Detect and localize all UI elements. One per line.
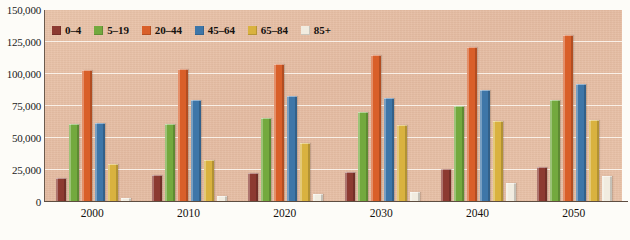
- chart-legend: 0–45–1920–4445–6465–8485+: [52, 22, 331, 38]
- bar: [345, 172, 355, 202]
- x-axis-tick-label: 2040: [466, 207, 489, 219]
- bar-shadow-edge: [597, 120, 599, 202]
- bar-highlight-edge: [358, 112, 360, 202]
- bar-shadow-edge: [462, 106, 464, 202]
- y-axis-tick-label: 25,000: [12, 164, 41, 176]
- bar: [82, 70, 92, 202]
- bar-shadow-edge: [488, 90, 490, 202]
- bar-top-cap: [410, 192, 420, 193]
- bar-highlight-edge: [397, 125, 399, 202]
- bar-shadow-edge: [392, 98, 394, 202]
- bar-highlight-edge: [261, 118, 263, 202]
- legend-item[interactable]: 45–64: [195, 24, 235, 36]
- plot-area: [44, 10, 622, 202]
- bar-top-cap: [563, 35, 573, 36]
- bar: [191, 100, 201, 202]
- bar-top-cap: [480, 90, 490, 91]
- bar-highlight-edge: [95, 123, 97, 202]
- bar-highlight-edge: [384, 98, 386, 202]
- bar: [493, 121, 503, 202]
- bar: [95, 123, 105, 202]
- bar-highlight-edge: [493, 121, 495, 202]
- y-axis-tick-label: 75,000: [12, 100, 41, 112]
- bar-shadow-edge: [186, 69, 188, 202]
- bar-top-cap: [82, 70, 92, 71]
- bar-highlight-edge: [204, 160, 206, 202]
- bar-shadow-edge: [160, 175, 162, 202]
- bar-highlight-edge: [550, 100, 552, 202]
- bar-top-cap: [384, 98, 394, 99]
- bar-top-cap: [165, 124, 175, 125]
- bar-highlight-edge: [602, 176, 604, 202]
- bar: [248, 173, 258, 202]
- bar: [165, 124, 175, 202]
- bar-highlight-edge: [589, 120, 591, 202]
- legend-swatch-icon: [301, 26, 310, 35]
- bar: [204, 160, 214, 202]
- bar-shadow-edge: [308, 143, 310, 202]
- bar-top-cap: [95, 123, 105, 124]
- bar: [178, 69, 188, 202]
- bar: [480, 90, 490, 202]
- bar: [537, 167, 547, 202]
- bar-top-cap: [313, 194, 323, 195]
- bar-shadow-edge: [405, 125, 407, 202]
- bar-highlight-edge: [371, 55, 373, 202]
- bar-shadow-edge: [173, 124, 175, 202]
- bar-top-cap: [121, 198, 131, 199]
- bar: [576, 84, 586, 202]
- bar-shadow-edge: [199, 100, 201, 202]
- bar-top-cap: [454, 106, 464, 107]
- bar-shadow-edge: [116, 164, 118, 202]
- legend-item-label: 65–84: [261, 24, 288, 36]
- legend-item[interactable]: 85+: [301, 24, 331, 36]
- bar-highlight-edge: [248, 173, 250, 202]
- bar: [441, 169, 451, 202]
- bar-highlight-edge: [56, 178, 58, 202]
- bar-top-cap: [467, 47, 477, 48]
- legend-item[interactable]: 5–19: [94, 24, 129, 36]
- bars-layer: [45, 10, 622, 202]
- bar-top-cap: [371, 55, 381, 56]
- bar-shadow-edge: [571, 35, 573, 202]
- bar-shadow-edge: [514, 183, 516, 202]
- bar-top-cap: [345, 172, 355, 173]
- bar: [384, 98, 394, 202]
- bar-shadow-edge: [545, 167, 547, 202]
- bar-shadow-edge: [449, 169, 451, 202]
- legend-item[interactable]: 65–84: [248, 24, 288, 36]
- x-axis-baseline: [44, 201, 628, 202]
- bar-shadow-edge: [610, 176, 612, 202]
- bar-shadow-edge: [353, 172, 355, 202]
- bar-top-cap: [108, 164, 118, 165]
- legend-item-label: 85+: [314, 24, 331, 36]
- bar-highlight-edge: [480, 90, 482, 202]
- legend-item[interactable]: 20–44: [142, 24, 182, 36]
- bar-highlight-edge: [165, 124, 167, 202]
- bar-highlight-edge: [506, 183, 508, 202]
- x-axis-tick-label: 2050: [562, 207, 585, 219]
- bar-highlight-edge: [191, 100, 193, 202]
- bar-shadow-edge: [103, 123, 105, 202]
- bar-top-cap: [537, 167, 547, 168]
- bar-highlight-edge: [300, 143, 302, 202]
- bar-highlight-edge: [178, 69, 180, 202]
- bar-top-cap: [576, 84, 586, 85]
- legend-item[interactable]: 0–4: [52, 24, 81, 36]
- bar-top-cap: [56, 178, 66, 179]
- legend-swatch-icon: [142, 26, 151, 35]
- population-projection-bar-chart: 025,00050,00075,000100,000125,000150,000…: [0, 0, 630, 240]
- bar-shadow-edge: [269, 118, 271, 202]
- bar-top-cap: [204, 160, 214, 161]
- bar: [108, 164, 118, 202]
- bar: [358, 112, 368, 202]
- bar: [300, 143, 310, 202]
- y-axis-tick-label: 100,000: [7, 68, 41, 80]
- bar-top-cap: [589, 120, 599, 121]
- bar-highlight-edge: [108, 164, 110, 202]
- bar-shadow-edge: [501, 121, 503, 202]
- bar: [274, 64, 284, 202]
- y-axis-tick-label: 125,000: [7, 36, 41, 48]
- bar: [550, 100, 560, 202]
- bar-top-cap: [69, 124, 79, 125]
